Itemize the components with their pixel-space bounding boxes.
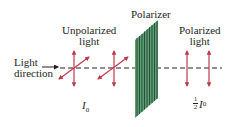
unpolarized-label-line2: light: [62, 36, 116, 47]
light-direction-line2: direction: [14, 68, 53, 79]
polarized-light-label: Polarized light: [179, 25, 221, 47]
fraction-numerator: 1: [193, 96, 198, 103]
intensity-subscript: 0: [86, 106, 90, 114]
light-direction-label: Light direction: [14, 57, 53, 79]
output-intensity-label: 1 2 I0: [193, 96, 206, 111]
input-intensity-label: I0: [82, 100, 89, 116]
fraction-half: 1 2: [193, 96, 198, 111]
polarized-label-line2: light: [179, 36, 221, 47]
intensity-subscript-out: 0: [203, 100, 207, 108]
unpolarized-light-label: Unpolarized light: [62, 25, 116, 47]
fraction-denominator: 2: [193, 104, 198, 111]
polarizer-label: Polarizer: [131, 9, 171, 20]
polarizer-sheet: [135, 20, 158, 118]
